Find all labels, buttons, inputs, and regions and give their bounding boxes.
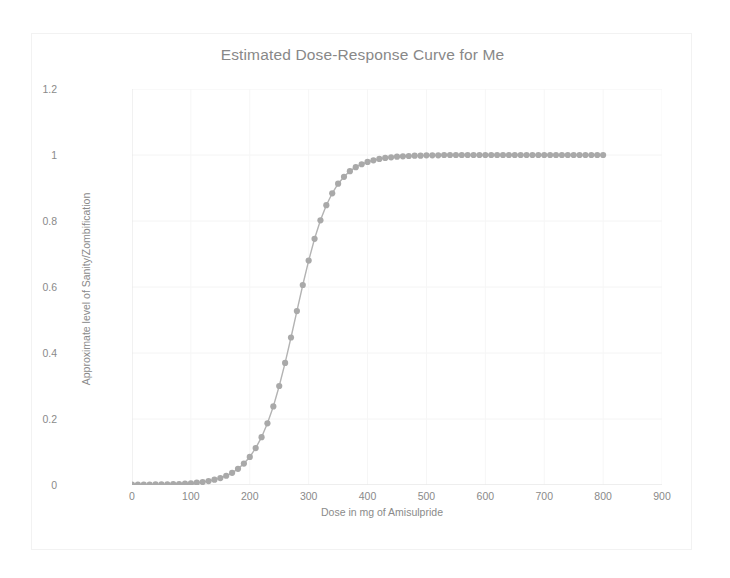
- data-point-marker: [347, 168, 353, 174]
- data-point-marker: [576, 152, 582, 158]
- x-axis-tick-label: 400: [338, 490, 398, 502]
- data-point-marker: [388, 154, 394, 160]
- data-point-marker: [453, 152, 459, 158]
- x-axis-tick-label: 800: [573, 490, 633, 502]
- data-point-marker: [359, 161, 365, 167]
- data-point-marker: [300, 282, 306, 288]
- data-point-marker: [506, 152, 512, 158]
- data-point-marker: [147, 482, 153, 485]
- data-point-marker: [335, 181, 341, 187]
- plot-area: [132, 89, 662, 485]
- data-point-marker: [588, 152, 594, 158]
- data-point-marker: [132, 482, 135, 485]
- data-point-marker: [494, 152, 500, 158]
- data-point-marker: [158, 481, 164, 485]
- y-axis-title-wrapper: Approximate level of Sanity/Zombificatio…: [76, 89, 96, 489]
- data-point-marker: [470, 152, 476, 158]
- data-point-marker: [200, 479, 206, 485]
- data-point-marker: [276, 383, 282, 389]
- data-point-marker: [217, 475, 223, 481]
- data-point-marker: [476, 152, 482, 158]
- data-point-marker: [447, 152, 453, 158]
- data-point-marker: [376, 156, 382, 162]
- data-point-marker: [600, 152, 606, 158]
- x-axis-tick-label: 200: [220, 490, 280, 502]
- y-axis-tick-label: 0.4: [0, 347, 57, 359]
- data-point-marker: [582, 152, 588, 158]
- data-point-marker: [370, 157, 376, 163]
- data-point-marker: [270, 403, 276, 409]
- data-point-marker: [258, 434, 264, 440]
- data-point-marker: [465, 152, 471, 158]
- data-point-marker: [482, 152, 488, 158]
- data-point-marker: [317, 217, 323, 223]
- y-axis-tick-label: 1.2: [0, 83, 57, 95]
- data-point-marker: [241, 460, 247, 466]
- data-point-marker: [406, 153, 412, 159]
- data-point-marker: [353, 164, 359, 170]
- data-point-marker: [176, 481, 182, 485]
- data-point-marker: [306, 258, 312, 264]
- data-point-marker: [429, 152, 435, 158]
- data-point-marker: [400, 153, 406, 159]
- x-axis-tick-label: 600: [455, 490, 515, 502]
- data-point-marker: [205, 478, 211, 484]
- chart-container: Estimated Dose-Response Curve for Me App…: [31, 33, 692, 550]
- y-axis-title: Approximate level of Sanity/Zombificatio…: [80, 193, 92, 386]
- data-point-marker: [329, 190, 335, 196]
- series-markers: [132, 152, 606, 485]
- y-axis-tick-label: 0: [0, 479, 57, 491]
- data-point-marker: [194, 480, 200, 485]
- data-point-marker: [529, 152, 535, 158]
- data-point-marker: [441, 152, 447, 158]
- data-point-marker: [459, 152, 465, 158]
- data-point-marker: [223, 473, 229, 479]
- data-point-marker: [282, 360, 288, 366]
- data-point-marker: [364, 159, 370, 165]
- data-point-marker: [382, 155, 388, 161]
- x-axis-tick-label: 300: [279, 490, 339, 502]
- data-point-marker: [311, 236, 317, 242]
- x-axis-tick-label: 700: [514, 490, 574, 502]
- data-point-marker: [541, 152, 547, 158]
- data-point-marker: [423, 152, 429, 158]
- x-axis-tick-label: 100: [161, 490, 221, 502]
- data-point-marker: [288, 334, 294, 340]
- data-point-marker: [323, 202, 329, 208]
- data-point-marker: [141, 482, 147, 485]
- data-point-marker: [523, 152, 529, 158]
- data-point-marker: [500, 152, 506, 158]
- data-point-marker: [488, 152, 494, 158]
- data-point-marker: [547, 152, 553, 158]
- data-point-marker: [264, 420, 270, 426]
- data-point-marker: [253, 445, 259, 451]
- data-point-marker: [294, 308, 300, 314]
- data-point-marker: [164, 481, 170, 485]
- chart-title: Estimated Dose-Response Curve for Me: [32, 46, 693, 64]
- data-point-marker: [182, 481, 188, 485]
- y-axis-tick-label: 0.6: [0, 281, 57, 293]
- data-point-marker: [571, 152, 577, 158]
- data-point-marker: [152, 481, 158, 485]
- data-point-marker: [394, 154, 400, 160]
- data-point-marker: [229, 470, 235, 476]
- data-point-marker: [518, 152, 524, 158]
- y-axis-tick-label: 0.8: [0, 215, 57, 227]
- x-axis-tick-label: 900: [632, 490, 692, 502]
- data-point-marker: [417, 153, 423, 159]
- x-axis-tick-label: 0: [102, 490, 162, 502]
- data-point-marker: [559, 152, 565, 158]
- y-axis-tick-label: 1: [0, 149, 57, 161]
- data-point-marker: [435, 152, 441, 158]
- data-point-marker: [135, 482, 141, 485]
- data-point-marker: [553, 152, 559, 158]
- data-point-marker: [247, 454, 253, 460]
- x-axis-title: Dose in mg of Amisulpride: [132, 506, 632, 518]
- data-point-marker: [341, 174, 347, 180]
- chart-svg: [132, 89, 662, 485]
- data-point-marker: [211, 477, 217, 483]
- x-axis-tick-label: 500: [396, 490, 456, 502]
- data-point-marker: [188, 480, 194, 485]
- y-axis-tick-label: 0.2: [0, 413, 57, 425]
- data-point-marker: [594, 152, 600, 158]
